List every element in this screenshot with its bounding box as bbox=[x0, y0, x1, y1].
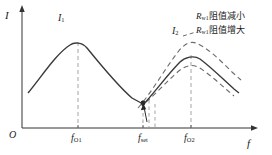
legend: Rw1阻值减小 Rw1阻值增大 bbox=[196, 12, 245, 36]
x-axis-label: f bbox=[247, 138, 250, 149]
legend-item-0-subscript: w1 bbox=[202, 15, 209, 21]
curve-i2-upper-dashed bbox=[138, 42, 241, 108]
curve-i1-solid bbox=[28, 43, 143, 104]
x-tick-label-f-o2: fO2 bbox=[184, 133, 195, 144]
curve-i2-solid bbox=[142, 57, 239, 106]
resonance-curve-figure: I f O I1 I2 fO1 fset fO2 Rw1阻值减小 Rw1阻值增大 bbox=[0, 0, 272, 155]
x-tick-label-f-set: fset bbox=[138, 133, 148, 144]
x-tick-f-o2-subscript: O2 bbox=[187, 136, 195, 143]
curve-label-i2-subscript: 2 bbox=[175, 29, 178, 36]
legend-item-0-text: 阻值减小 bbox=[209, 11, 245, 21]
curve-label-i1-subscript: 1 bbox=[61, 16, 64, 23]
y-axis-label: I bbox=[5, 10, 9, 21]
curve-i2-lower-dashed bbox=[146, 66, 234, 102]
x-tick-f-o1-subscript: O1 bbox=[74, 136, 82, 143]
x-tick-label-f-o1: fO1 bbox=[71, 133, 82, 144]
x-tick-f-set-subscript: set bbox=[141, 136, 148, 143]
legend-leader-lines bbox=[183, 32, 196, 36]
curve-label-i1: I1 bbox=[58, 13, 65, 24]
legend-item-1-text: 阻值增大 bbox=[209, 25, 245, 35]
y-axis bbox=[19, 5, 24, 128]
curve-label-i2: I2 bbox=[172, 26, 179, 37]
legend-item-1-subscript: w1 bbox=[202, 29, 209, 35]
origin-label: O bbox=[9, 130, 16, 140]
crossing-arrow bbox=[141, 104, 147, 123]
x-axis bbox=[22, 125, 258, 130]
legend-item-resistance-increase: Rw1阻值增大 bbox=[196, 26, 245, 36]
legend-item-resistance-decrease: Rw1阻值减小 bbox=[196, 12, 245, 22]
